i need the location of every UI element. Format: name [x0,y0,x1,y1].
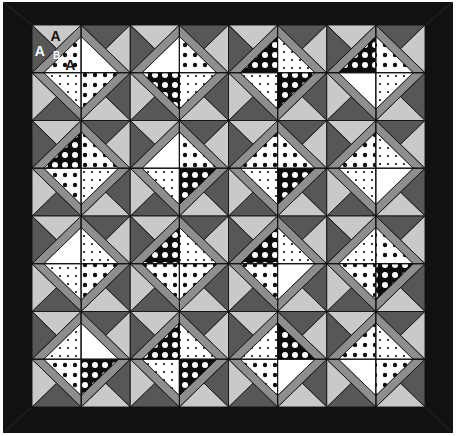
quilt-block [130,121,228,217]
quilt-block [32,216,130,312]
quilt-block [229,25,327,121]
quilt-block [229,216,327,312]
quilt-block [130,216,228,312]
piece-label: A [35,43,45,59]
quilt-blocks [32,25,425,407]
quilt-block [32,25,130,121]
quilt-diagram: AABA [0,0,458,436]
piece-label: A [65,57,75,73]
quilt-block [327,312,425,408]
quilt-block [327,25,425,121]
piece-label: A [51,28,61,44]
quilt-block [229,121,327,217]
quilt-block [327,216,425,312]
quilt-block [130,312,228,408]
quilt-block [130,25,228,121]
quilt-block [327,121,425,217]
quilt-block [32,121,130,217]
quilt-block [229,312,327,408]
quilt-block [32,312,130,408]
piece-label: B [53,50,60,61]
